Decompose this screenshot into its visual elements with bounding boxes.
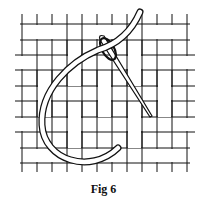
stitch-diagram	[0, 0, 207, 180]
figure-caption: Fig 6	[0, 182, 207, 197]
